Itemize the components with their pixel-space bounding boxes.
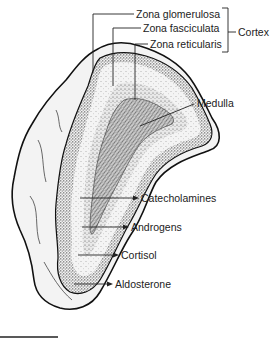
label-zona-reticularis: Zona reticularis [150, 38, 222, 50]
label-zona-glomerulosa: Zona glomerulosa [136, 8, 220, 20]
label-aldosterone: Aldosterone [115, 278, 171, 290]
label-catecholamines: Catecholamines [141, 192, 216, 204]
label-zona-fasciculata: Zona fasciculata [143, 22, 219, 34]
label-cortisol: Cortisol [121, 249, 157, 261]
label-androgens: Androgens [131, 221, 182, 233]
label-medulla: Medulla [197, 97, 234, 109]
label-cortex: Cortex [238, 26, 269, 38]
